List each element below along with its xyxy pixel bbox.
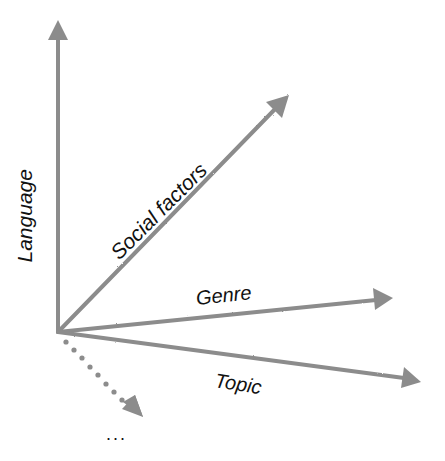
language-label: Language bbox=[14, 169, 35, 262]
language-axis-arrow bbox=[48, 20, 68, 332]
more-dimensions-dotted-arrow bbox=[63, 339, 143, 417]
more-dimensions-ellipsis: ... bbox=[106, 425, 127, 443]
social-factors-axis-arrow bbox=[58, 95, 289, 332]
dimension-diagram: Language Social factors Genre Topic ... bbox=[0, 0, 445, 461]
